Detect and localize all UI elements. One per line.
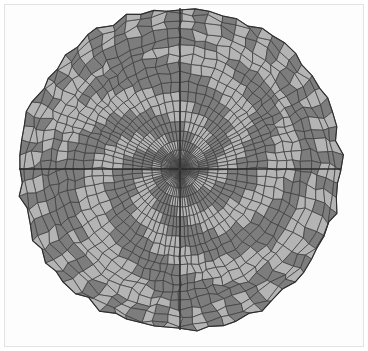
mesh-cell (300, 149, 312, 162)
mesh-cell (191, 64, 202, 75)
mesh-cell (161, 82, 171, 93)
mesh-cell (174, 111, 180, 121)
mesh-cell (173, 101, 181, 112)
mesh-cell (217, 170, 227, 174)
mesh-cell (103, 176, 114, 183)
figure-root (0, 0, 368, 351)
mesh-cell (188, 92, 197, 103)
mesh-cell (228, 170, 238, 174)
mesh-cell (112, 169, 122, 175)
mesh-cell (257, 160, 268, 168)
mesh-cell (175, 122, 180, 132)
mesh-cell (213, 277, 223, 286)
mesh-cell (174, 256, 180, 265)
mesh-cell (168, 255, 175, 265)
plot-area (0, 0, 368, 351)
mesh-cell (191, 255, 199, 265)
mesh-cell (94, 153, 105, 161)
mesh-cell (170, 82, 179, 93)
mesh-cell (187, 273, 196, 284)
mesh-cell (300, 161, 312, 173)
mesh-cell (92, 160, 103, 168)
polar-mesh-chart (0, 0, 368, 351)
mesh-cell (83, 160, 93, 169)
